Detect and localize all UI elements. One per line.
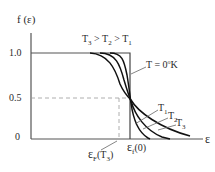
y-tick-0: 0 bbox=[15, 132, 20, 142]
fermi-energy-t3-label: εF(T3) bbox=[88, 148, 113, 160]
temperature-ordering: T3 > T2 > T1 bbox=[82, 34, 132, 44]
y-tick-1: 1.0 bbox=[9, 48, 22, 58]
t-zero-label: T = 0oK bbox=[146, 60, 178, 70]
t3-label: T3 bbox=[176, 118, 186, 128]
t1-label: T1 bbox=[158, 103, 168, 113]
fermi-energy-zero-label: εf(0) bbox=[127, 141, 146, 153]
curve-t0 bbox=[90, 53, 130, 139]
t2-pointer bbox=[143, 118, 168, 129]
x-axis-label: ε bbox=[205, 133, 210, 145]
t0-pointer bbox=[131, 67, 146, 74]
y-axis-label: f (ε) bbox=[17, 14, 35, 25]
fermi-dirac-diagram: f (ε) 1.0 0.5 0 T3 > T2 > T1 T = 0oK T1 … bbox=[0, 0, 215, 172]
plot-canvas bbox=[0, 0, 215, 172]
t3-pointer bbox=[158, 125, 176, 130]
y-tick-0-5: 0.5 bbox=[9, 93, 22, 103]
